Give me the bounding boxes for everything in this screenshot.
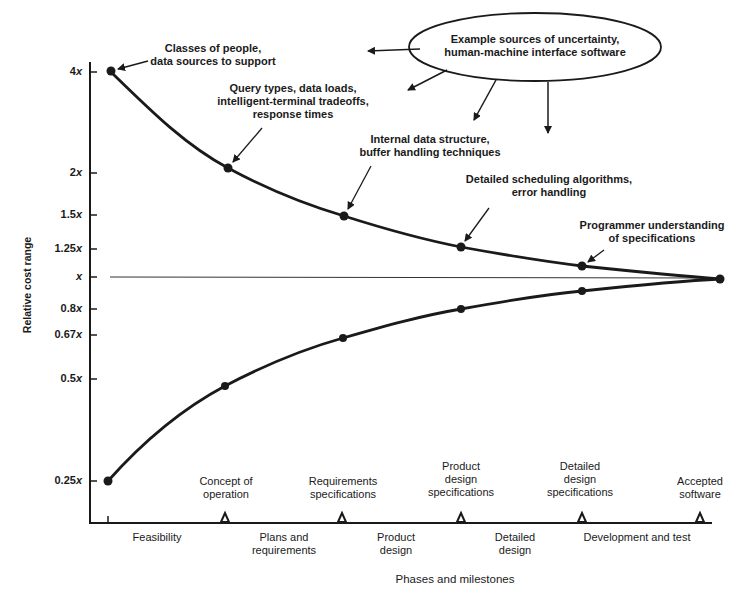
y-tick-0-25x: 0.25x	[42, 474, 82, 486]
milestone-line: design	[547, 473, 613, 486]
y-tick-4x: 4x	[42, 65, 82, 77]
milestone-accepted-software: Accepted software	[677, 475, 723, 501]
annotation-line: Detailed scheduling algorithms,	[466, 173, 632, 186]
milestone-line: design	[428, 473, 494, 486]
callout-line-1: Example sources of uncertainty,	[444, 33, 626, 46]
reference-line	[110, 277, 715, 278]
milestone-product-design-specifications: Product design specifications	[428, 460, 494, 499]
milestone-line: operation	[199, 488, 252, 501]
milestone-line: Accepted	[677, 475, 723, 488]
y-tick-0-8x: 0.8x	[42, 302, 82, 314]
annotation-programmer-understanding: Programmer understanding of specificatio…	[580, 219, 725, 245]
y-tick-2x: 2x	[42, 166, 82, 178]
milestone-concept-of-operation: Concept of operation	[199, 475, 252, 501]
x-axis-label: Phases and milestones	[396, 573, 515, 585]
phase-line: Development and test	[583, 531, 690, 544]
annotation-line: error handling	[466, 186, 632, 199]
annotation-line: Programmer understanding	[580, 219, 725, 232]
phase-line: Plans and	[252, 531, 316, 544]
milestone-line: Concept of	[199, 475, 252, 488]
y-tick-0-5x: 0.5x	[42, 372, 82, 384]
y-tick-x: x	[42, 270, 82, 282]
phase-feasibility: Feasibility	[133, 531, 182, 544]
annotation-line: response times	[217, 108, 369, 121]
y-tick-0-67x: 0.67x	[42, 328, 82, 340]
milestone-line: Requirements	[309, 475, 377, 488]
phase-line: Feasibility	[133, 531, 182, 544]
annotation-internal-data-structure: Internal data structure, buffer handling…	[359, 133, 500, 159]
annotation-line: data sources to support	[150, 55, 275, 68]
annotation-line: Classes of people,	[150, 42, 275, 55]
phase-detailed-design: Detailed design	[495, 531, 535, 557]
phase-line: design	[495, 544, 535, 557]
milestone-detailed-design-specifications: Detailed design specifications	[547, 460, 613, 499]
phase-line: Detailed	[495, 531, 535, 544]
phase-product-design: Product design	[377, 531, 415, 557]
annotation-detailed-scheduling: Detailed scheduling algorithms, error ha…	[466, 173, 632, 199]
milestone-markers	[221, 513, 704, 522]
callout-text: Example sources of uncertainty, human-ma…	[444, 33, 626, 59]
callout-arrows	[368, 49, 548, 133]
y-axis-label: Relative cost range	[21, 237, 33, 333]
milestone-line: specifications	[428, 486, 494, 499]
phase-development-and-test: Development and test	[583, 531, 690, 544]
annotation-line: Internal data structure,	[359, 133, 500, 146]
phase-line: requirements	[252, 544, 316, 557]
y-tick-1-5x: 1.5x	[42, 208, 82, 220]
milestone-line: specifications	[309, 488, 377, 501]
annotation-line: Query types, data loads,	[217, 82, 369, 95]
phase-line: Product	[377, 531, 415, 544]
milestone-line: specifications	[547, 486, 613, 499]
callout-line-2: human-machine interface software	[444, 46, 626, 59]
milestone-line: Product	[428, 460, 494, 473]
phase-line: design	[377, 544, 415, 557]
lower-bound-curve	[108, 279, 720, 481]
milestone-requirements-specifications: Requirements specifications	[309, 475, 377, 501]
annotation-line: intelligent-terminal tradeoffs,	[217, 95, 369, 108]
annotation-classes-of-people: Classes of people, data sources to suppo…	[150, 42, 275, 68]
phase-plans-and-requirements: Plans and requirements	[252, 531, 316, 557]
cone-of-uncertainty-chart	[0, 0, 745, 598]
annotation-line: buffer handling techniques	[359, 146, 500, 159]
data-points	[104, 67, 725, 486]
annotation-query-types: Query types, data loads, intelligent-ter…	[217, 82, 369, 121]
y-tick-1-25x: 1.25x	[42, 242, 82, 254]
milestone-line: Detailed	[547, 460, 613, 473]
milestone-line: software	[677, 488, 723, 501]
y-ticks	[90, 72, 108, 523]
annotation-line: of specifications	[580, 232, 725, 245]
